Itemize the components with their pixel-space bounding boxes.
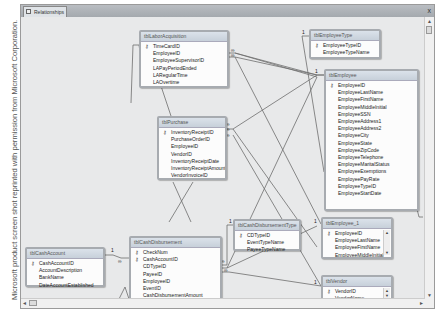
scroll-left-icon[interactable]: ◄ — [22, 299, 27, 308]
scroll-thumb[interactable] — [426, 26, 432, 34]
field-item[interactable]: EmployeeMiddleInitial — [326, 104, 417, 111]
tab-label: Relationships — [34, 9, 64, 15]
field-item[interactable]: LAOvertime — [141, 79, 227, 86]
field-item[interactable]: EmployeeTypeName — [311, 49, 379, 56]
field-item[interactable]: EmployeeTelephone — [326, 154, 417, 161]
field-item[interactable]: ⚷TimeCardID — [141, 43, 227, 50]
close-icon[interactable]: x — [428, 6, 432, 16]
table-scrollbar[interactable]: ▲ ▼ — [383, 288, 390, 298]
field-item[interactable]: EmployeeFirstName — [323, 244, 391, 251]
field-item[interactable]: EmployeeState — [326, 140, 417, 147]
table-title[interactable]: tblPurchase — [159, 118, 225, 128]
table-tblemployee[interactable]: tblEmployee ⚷EmployeeID EmployeeLastName… — [324, 69, 419, 211]
field-item[interactable]: PayeeTypeName — [235, 246, 299, 253]
table-title[interactable]: tblLaborAcquisition — [141, 32, 227, 42]
field-item[interactable]: EmployeeID — [131, 278, 220, 285]
field-item[interactable]: VendorInvoiceID — [159, 172, 225, 179]
field-item[interactable]: LARegularTime — [141, 72, 227, 79]
table-title[interactable]: tblVendor — [323, 277, 391, 287]
field-list: ⚷CDTypeID EventTypeName PayeeTypeName — [235, 231, 299, 256]
field-item[interactable]: EventTypeName — [235, 239, 299, 246]
svg-text:1: 1 — [302, 29, 305, 35]
copyright-credit: Microsoft product screen shot reprinted … — [0, 0, 20, 311]
svg-text:∞: ∞ — [224, 267, 228, 273]
horizontal-scrollbar[interactable]: ◄ ► — [21, 298, 425, 308]
primary-key-icon: ⚷ — [327, 288, 331, 295]
table-title[interactable]: tblCashAccount — [27, 249, 103, 259]
primary-key-icon: ⚷ — [145, 43, 149, 50]
field-item[interactable]: ⚷CDTypeID — [235, 232, 299, 239]
field-item[interactable]: ⚷EmployeeID — [326, 82, 417, 89]
field-item[interactable]: ⚷CashAccountID — [27, 260, 103, 267]
field-item[interactable]: InventoryReceiptDate — [159, 158, 225, 165]
svg-text:1: 1 — [229, 218, 232, 224]
scroll-thumb[interactable] — [29, 300, 37, 306]
field-item[interactable]: EmployeeAddress1 — [326, 118, 417, 125]
field-item[interactable]: EmployeeZipCode — [326, 147, 417, 154]
field-item[interactable]: EmployeeMiddleInitial — [323, 252, 391, 259]
field-item[interactable]: EmployeeFirstName — [326, 96, 417, 103]
scroll-up-icon[interactable]: ▲ — [425, 17, 434, 25]
field-item[interactable]: EmployeeTypeID — [326, 183, 417, 190]
field-list: ⚷InventoryReceiptID PurchaseOrderID Empl… — [159, 128, 225, 181]
tab-relationships[interactable]: Relationships — [23, 6, 67, 17]
field-item[interactable]: ⚷EmployeeID — [323, 230, 391, 237]
field-item[interactable]: EmployeeLastName — [323, 237, 391, 244]
field-item[interactable]: PurchaseOrderID — [159, 136, 225, 143]
field-item[interactable]: VendorID — [159, 151, 225, 158]
table-tblemployee-1[interactable]: tblEmployee_1 ⚷EmployeeID EmployeeLastNa… — [321, 217, 393, 259]
table-tblcashdisbursementtype[interactable]: tblCashDisbursementType ⚷CDTypeID EventT… — [233, 219, 301, 251]
field-list: ⚷EmployeeID EmployeeLastName EmployeeFir… — [326, 81, 417, 199]
field-item[interactable]: EmployeeMaritalStatus — [326, 161, 417, 168]
field-item[interactable]: EmployeeID — [159, 143, 225, 150]
credit-text: Microsoft product screen shot reprinted … — [10, 20, 19, 300]
field-list: ⚷CashAccountID AccountDescription BankNa… — [27, 259, 103, 291]
field-item[interactable]: AccountDescription — [27, 267, 103, 274]
field-item[interactable]: ⚷VendorID — [323, 288, 391, 295]
primary-key-icon: ⚷ — [330, 82, 334, 89]
field-item[interactable]: EmployeeCity — [326, 132, 417, 139]
svg-text:1: 1 — [111, 247, 114, 253]
primary-key-icon: ⚷ — [135, 256, 139, 263]
field-item[interactable]: EmployeeID — [141, 50, 227, 57]
table-tblcashdisbursement[interactable]: tblCashDisbursement ⚷CheckNum ⚷CashAccou… — [129, 236, 222, 304]
field-list: ⚷EmployeeID EmployeeLastName EmployeeFir… — [323, 229, 391, 259]
table-scrollbar[interactable]: ▲ ▼ — [383, 230, 390, 255]
table-tblemployeetype[interactable]: tblEmployeeType ⚷EmployeeTypeID Employee… — [309, 29, 381, 59]
field-item[interactable]: PayeeID — [131, 271, 220, 278]
field-item[interactable]: EventID — [131, 285, 220, 292]
primary-key-icon: ⚷ — [163, 129, 167, 136]
table-title[interactable]: tblCashDisbursementType — [235, 221, 299, 231]
primary-key-icon: ⚷ — [239, 232, 243, 239]
scroll-right-icon[interactable]: ► — [419, 299, 424, 308]
field-item[interactable]: InventoryReceiptAmount — [159, 165, 225, 172]
scroll-up-icon[interactable]: ▲ — [384, 230, 390, 235]
field-item[interactable]: EmployeeExemptions — [326, 168, 417, 175]
scroll-down-icon[interactable]: ▼ — [384, 250, 390, 255]
field-item[interactable]: ⚷InventoryReceiptID — [159, 129, 225, 136]
field-item[interactable]: CDTypeID — [131, 263, 220, 270]
field-item[interactable]: EmployeeStartDate — [326, 190, 417, 197]
table-title[interactable]: tblEmployee_1 — [323, 219, 391, 229]
field-item[interactable]: BankName — [27, 274, 103, 281]
field-item[interactable]: EmployeeSupervisorID — [141, 57, 227, 64]
field-item[interactable]: EmployeeLastName — [326, 89, 417, 96]
field-item[interactable]: LAPayPeriodEnded — [141, 65, 227, 72]
table-tblcashaccount[interactable]: tblCashAccount ⚷CashAccountID AccountDes… — [25, 247, 105, 287]
table-title[interactable]: tblEmployee — [326, 71, 417, 81]
field-item[interactable]: EmployeeSSN — [326, 111, 417, 118]
field-item[interactable]: ⚷CashAccountID — [131, 256, 220, 263]
relationships-window: Relationships x — [20, 4, 435, 309]
table-tblpurchase[interactable]: tblPurchase ⚷InventoryReceiptID Purchase… — [157, 116, 227, 180]
scroll-down-icon[interactable]: ▼ — [425, 291, 434, 299]
field-item[interactable]: EmployeePayRate — [326, 176, 417, 183]
field-item[interactable]: EmployeeAddress2 — [326, 125, 417, 132]
vertical-scrollbar[interactable]: ▲ ▼ — [424, 17, 434, 299]
field-item[interactable]: ⚷EmployeeTypeID — [311, 42, 379, 49]
field-item[interactable]: ⚷CheckNum — [131, 249, 220, 256]
table-title[interactable]: tblEmployeeType — [311, 31, 379, 41]
table-tbllaboracquisition[interactable]: tblLaborAcquisition ⚷TimeCardID Employee… — [139, 30, 229, 88]
table-title[interactable]: tblCashDisbursement — [131, 238, 220, 248]
field-item[interactable]: DateAccountEstablished — [27, 282, 103, 289]
scrollbar-corner — [425, 299, 434, 308]
